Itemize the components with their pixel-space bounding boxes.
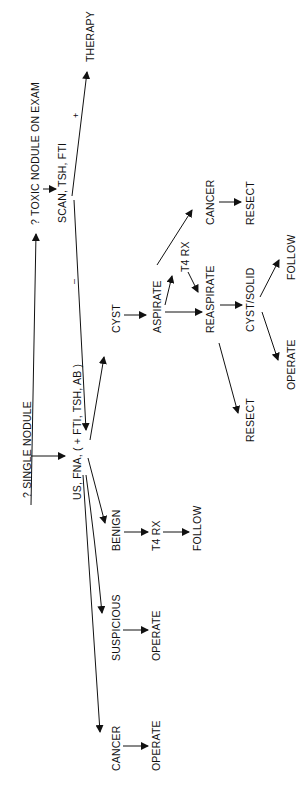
node-cyst-solid: CYST/SOLID bbox=[245, 268, 256, 332]
arrow-t4rx-to-reaspirate bbox=[188, 272, 198, 292]
edge-label-negative: – bbox=[70, 279, 79, 284]
arrow-reaspirate-to-resect bbox=[219, 343, 238, 413]
arrow-us-to-cyst bbox=[90, 357, 104, 440]
arrow-us-to-suspicious bbox=[86, 475, 102, 613]
node-us-fna: US, FNA, ( + FTI, TSH, AB ) bbox=[72, 364, 83, 500]
node-operate-cyst-solid: OPERATE bbox=[286, 339, 297, 390]
node-operate-suspicious: OPERATE bbox=[151, 610, 162, 661]
node-cyst: CYST bbox=[111, 304, 122, 333]
node-resect-reaspirate: RESECT bbox=[245, 398, 256, 442]
node-aspirate: ASPIRATE bbox=[152, 280, 163, 333]
edge-label-positive: + bbox=[72, 113, 81, 118]
node-scan: SCAN, TSH, FTI bbox=[57, 143, 68, 223]
arrow-cystsolid-to-operate bbox=[262, 312, 278, 360]
node-follow-cyst-solid: FOLLOW bbox=[286, 234, 297, 280]
node-t4rx-aspirate: T4 RX bbox=[180, 241, 191, 272]
node-single-nodule: ? SINGLE NODULE bbox=[22, 401, 33, 498]
node-reaspirate: REASPIRATE bbox=[205, 265, 216, 333]
arrow-aspirate-to-t4rx bbox=[165, 276, 172, 305]
node-suspicious: SUSPICIOUS bbox=[111, 594, 122, 661]
node-operate-cancer: OPERATE bbox=[151, 720, 162, 771]
flowchart-arrows bbox=[0, 0, 298, 789]
node-t4rx-benign: T4 RX bbox=[151, 520, 162, 551]
node-toxic-nodule: ? TOXIC NODULE ON EXAM bbox=[30, 82, 41, 225]
node-cancer-fna: CANCER bbox=[111, 725, 122, 771]
node-therapy: THERAPY bbox=[85, 11, 96, 62]
node-resect-cancer: RESECT bbox=[245, 181, 256, 225]
node-follow-benign: FOLLOW bbox=[192, 505, 203, 551]
node-benign: BENIGN bbox=[111, 510, 122, 551]
arrow-cystsolid-to-follow bbox=[260, 260, 279, 297]
arrow-scan-to-therapy bbox=[72, 72, 87, 196]
node-cancer-aspirate: CANCER bbox=[205, 179, 216, 225]
